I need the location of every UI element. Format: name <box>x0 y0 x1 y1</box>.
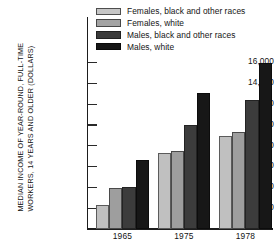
legend-item[interactable]: Males, black and other races <box>96 30 245 41</box>
bar-1965-series3[interactable] <box>136 160 149 229</box>
x-label-1978: 1978 <box>219 231 272 241</box>
chart-legend: Females, black and other racesFemales, w… <box>96 6 245 53</box>
legend-item[interactable]: Females, white <box>96 18 245 29</box>
bar-1965-series1[interactable] <box>109 188 122 229</box>
bar-1978-series2[interactable] <box>245 100 258 229</box>
legend-label: Males, black and other races <box>127 30 235 40</box>
legend-label: Males, white <box>127 42 174 52</box>
legend-label: Females, black and other races <box>127 6 245 16</box>
legend-item[interactable]: Males, white <box>96 41 245 52</box>
legend-label: Females, white <box>127 18 184 28</box>
swatch-medium-grey-icon <box>96 19 121 27</box>
x-label-1965: 1965 <box>96 231 149 241</box>
bar-1978-series0[interactable] <box>219 136 232 229</box>
swatch-dark-grey-icon <box>96 31 121 39</box>
bar-1975-series2[interactable] <box>184 125 197 229</box>
bar-1978-series3[interactable] <box>259 63 272 229</box>
bar-1965-series0[interactable] <box>96 205 109 229</box>
x-label-1975: 1975 <box>158 231 211 241</box>
income-bar-chart: MEDIAN INCOME OF YEAR-ROUND, FULL-TIME W… <box>0 0 274 248</box>
bar-1978-series1[interactable] <box>232 132 245 229</box>
swatch-light-grey-icon <box>96 8 121 16</box>
bar-1975-series3[interactable] <box>197 93 210 229</box>
bar-1975-series0[interactable] <box>158 153 171 229</box>
bar-1965-series2[interactable] <box>122 187 135 229</box>
legend-item[interactable]: Females, black and other races <box>96 6 245 17</box>
y-axis-title: MEDIAN INCOME OF YEAR-ROUND, FULL-TIME W… <box>16 0 35 212</box>
bar-1975-series1[interactable] <box>171 151 184 229</box>
swatch-black-icon <box>96 43 121 51</box>
